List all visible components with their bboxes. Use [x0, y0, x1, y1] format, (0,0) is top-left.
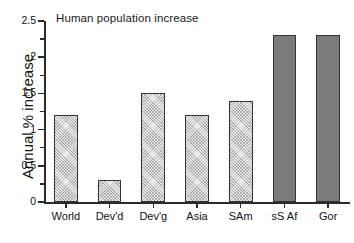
- bar-chart: Human population increase Annual % incre…: [0, 0, 354, 243]
- y-tick-label: 1.5: [21, 86, 36, 98]
- y-tick-label: 2.5: [21, 14, 36, 26]
- x-tick-label: SAm: [229, 210, 253, 222]
- x-tick-mark: [109, 203, 111, 208]
- x-tick-mark: [196, 203, 198, 208]
- bar-world: [54, 115, 78, 202]
- y-tick-label: 2: [30, 50, 36, 62]
- x-tick-label: Dev'd: [96, 210, 124, 222]
- x-tick-label: sS Af: [272, 210, 298, 222]
- bar-gor: [316, 35, 340, 202]
- bar-sam: [229, 101, 253, 202]
- bar-asia: [185, 115, 209, 202]
- bar-dev-g: [141, 93, 165, 202]
- bar-ss-af: [273, 35, 297, 202]
- y-tick-label: 0.5: [21, 159, 36, 171]
- y-tick-label: 0: [30, 195, 36, 207]
- x-tick-mark: [327, 203, 329, 208]
- x-tick-mark: [153, 203, 155, 208]
- x-tick-label: Dev'g: [139, 210, 167, 222]
- x-tick-label: World: [52, 210, 81, 222]
- x-tick-mark: [284, 203, 286, 208]
- plot-area: [44, 21, 350, 202]
- x-tick-mark: [65, 203, 67, 208]
- x-tick-mark: [240, 203, 242, 208]
- bar-dev-d: [98, 180, 122, 202]
- x-tick-label: Asia: [186, 210, 207, 222]
- y-tick-label: 1: [30, 123, 36, 135]
- x-tick-label: Gor: [319, 210, 337, 222]
